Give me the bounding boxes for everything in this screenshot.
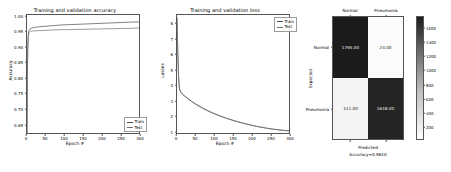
loss-chart-title: Training and validation loss [150, 7, 300, 13]
loss-legend: TrainTest [274, 17, 297, 32]
x-tick-mark [290, 134, 291, 136]
colorbar-tick-label: 1400 [426, 39, 436, 44]
y-tick-mark [175, 69, 177, 70]
colorbar-tick-mark [424, 42, 425, 43]
x-tick-mark [64, 134, 65, 136]
legend-color-swatch [127, 127, 133, 128]
confusion-matrix-column-tick-bottom [386, 140, 387, 142]
confusion-matrix-column-label: Normal [342, 8, 357, 13]
x-tick-mark [83, 134, 84, 136]
loss-series-svg [177, 15, 290, 134]
confusion-matrix-column-tick-bottom [350, 140, 351, 142]
colorbar-tick-label: 1200 [426, 54, 436, 59]
series-line-train [177, 17, 290, 131]
x-tick-mark [195, 134, 196, 136]
accuracy-x-axis-label: Epoch # [0, 141, 150, 146]
legend-color-swatch [127, 122, 133, 123]
colorbar-tick-mark [424, 28, 425, 29]
y-tick-label: 0.85 [14, 60, 23, 65]
accuracy-plot-area [26, 14, 140, 134]
loss-y-axis-label: Losses [160, 45, 165, 97]
x-tick-mark [26, 134, 27, 136]
legend-label: Test [284, 24, 292, 29]
matplotlib-figure: Training and validation accuracy 0.650.7… [0, 0, 451, 172]
loss-x-axis-label: Epoch # [150, 141, 300, 146]
y-tick-label: 1 [170, 129, 173, 134]
y-tick-mark [25, 62, 27, 63]
confusion-matrix-row-tick [331, 47, 333, 48]
confusion-matrix-cell: 111.00 [333, 78, 368, 139]
legend-item: Test [277, 24, 294, 29]
x-tick-mark [121, 134, 122, 136]
y-tick-mark [25, 31, 27, 32]
confusion-matrix-column-label: Pneumonia [374, 8, 397, 13]
y-tick-label: 8 [170, 21, 173, 26]
y-tick-mark [25, 46, 27, 47]
series-line-test [177, 18, 290, 131]
confusion-matrix-column-tick [386, 15, 387, 17]
y-tick-label: 0.95 [14, 29, 23, 34]
x-tick-mark [214, 134, 215, 136]
colorbar-tick-mark [424, 127, 425, 128]
y-tick-label: 1.00 [14, 13, 23, 18]
y-tick-mark [175, 54, 177, 55]
confusion-matrix-row-label: Normal [314, 45, 329, 50]
loss-plot-area [176, 14, 290, 134]
x-tick-mark [176, 134, 177, 136]
y-tick-label: 0.65 [14, 122, 23, 127]
confusion-matrix-cell-value: 1618.00 [377, 106, 394, 111]
legend-color-swatch [277, 21, 283, 22]
confusion-matrix-row-label: Pneumonia [306, 107, 329, 112]
legend-item: Test [127, 125, 144, 130]
y-tick-mark [175, 38, 177, 39]
y-tick-mark [175, 100, 177, 101]
confusion-matrix-cell-value: 1765.00 [342, 45, 359, 50]
confusion-matrix-column-tick [350, 15, 351, 17]
accuracy-legend: TrainTest [124, 117, 147, 132]
colorbar-tick-label: 400 [426, 111, 433, 116]
colorbar-tick-label: 1600 [426, 25, 436, 30]
x-tick-mark [140, 134, 141, 136]
y-tick-label: 7 [170, 36, 173, 41]
confusion-matrix-accuracy-caption: Accuracy=0.9610 [324, 152, 412, 157]
y-tick-mark [175, 131, 177, 132]
x-tick-mark [233, 134, 234, 136]
confusion-matrix-cell-value: 111.00 [343, 106, 358, 111]
colorbar-tick-label: 600 [426, 96, 433, 101]
legend-label: Test [134, 125, 142, 130]
confusion-matrix-y-axis-label: Expected [308, 55, 313, 103]
accuracy-y-axis-label: Accuracy [8, 45, 13, 97]
confusion-matrix-row-tick [331, 109, 333, 110]
y-tick-mark [25, 109, 27, 110]
y-tick-label: 0.75 [14, 91, 23, 96]
x-tick-mark [271, 134, 272, 136]
colorbar-tick-mark [424, 56, 425, 57]
y-tick-mark [175, 85, 177, 86]
y-tick-label: 2 [170, 114, 173, 119]
confusion-matrix-x-axis-label: Predicted [332, 145, 404, 150]
colorbar-tick-mark [424, 113, 425, 114]
y-tick-label: 0.90 [14, 44, 23, 49]
colorbar-tick-mark [424, 84, 425, 85]
confusion-matrix-cell: 1618.00 [368, 78, 403, 139]
colorbar-tick-mark [424, 70, 425, 71]
accuracy-chart-panel: Training and validation accuracy 0.650.7… [0, 0, 150, 172]
y-tick-mark [175, 23, 177, 24]
x-tick-mark [102, 134, 103, 136]
x-tick-mark [45, 134, 46, 136]
y-tick-mark [25, 124, 27, 125]
y-tick-label: 4 [170, 83, 173, 88]
legend-color-swatch [277, 27, 283, 28]
loss-chart-panel: Training and validation loss 12345678 05… [150, 0, 300, 172]
colorbar-tick-label: 1000 [426, 68, 436, 73]
confusion-matrix-cell: 24.00 [368, 17, 403, 78]
y-tick-mark [175, 116, 177, 117]
x-tick-mark [252, 134, 253, 136]
y-tick-label: 5 [170, 67, 173, 72]
y-tick-label: 6 [170, 52, 173, 57]
colorbar-tick-label: 800 [426, 82, 433, 87]
accuracy-series-svg [27, 15, 140, 134]
confusion-matrix-colorbar [416, 16, 424, 140]
y-tick-mark [25, 78, 27, 79]
confusion-matrix-cell-value: 24.00 [380, 45, 392, 50]
